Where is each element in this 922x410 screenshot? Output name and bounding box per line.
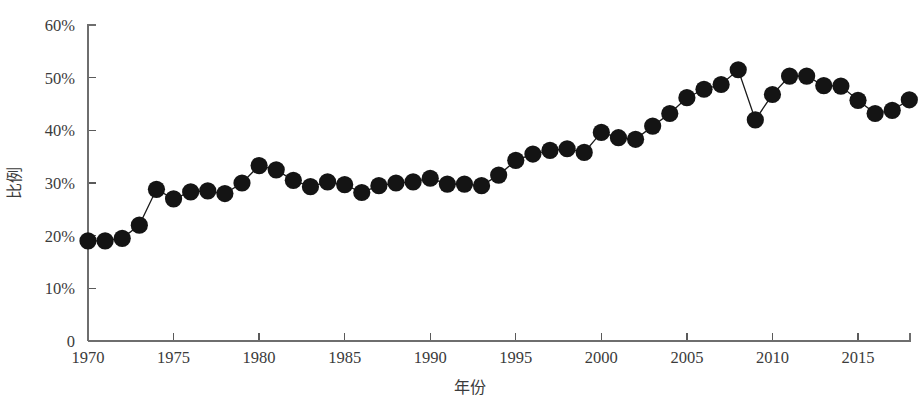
data-point-marker	[832, 77, 849, 94]
data-point-marker	[507, 152, 524, 169]
data-point-marker	[405, 173, 422, 190]
data-point-marker	[541, 142, 558, 159]
data-point-marker	[730, 61, 747, 78]
data-point-marker	[593, 124, 610, 141]
data-point-marker	[353, 184, 370, 201]
data-point-marker	[849, 92, 866, 109]
data-point-marker	[216, 185, 233, 202]
x-axis-tick-label: 1980	[243, 348, 276, 367]
data-point-marker	[884, 102, 901, 119]
x-axis-tick-label: 1990	[414, 348, 447, 367]
data-point-marker	[302, 178, 319, 195]
x-axis-tick-label: 1985	[328, 348, 361, 367]
data-point-marker	[524, 145, 541, 162]
y-axis-tick-label: 50%	[45, 69, 76, 88]
data-point-marker	[678, 89, 695, 106]
data-point-marker	[268, 161, 285, 178]
data-point-marker	[114, 230, 131, 247]
data-point-marker	[473, 177, 490, 194]
data-point-marker	[422, 170, 439, 187]
line-chart: 010%20%30%40%50%60% 19701975198019851990…	[0, 0, 922, 410]
data-point-marker	[251, 157, 268, 174]
data-point-marker	[576, 144, 593, 161]
data-point-marker	[370, 177, 387, 194]
x-axis-tick-label: 2015	[842, 348, 875, 367]
series-marker-group	[79, 61, 918, 249]
data-point-marker	[559, 140, 576, 157]
data-point-marker	[131, 217, 148, 234]
data-point-marker	[182, 183, 199, 200]
data-point-marker	[644, 118, 661, 135]
data-point-marker	[97, 232, 114, 249]
data-point-marker	[695, 81, 712, 98]
data-point-marker	[713, 76, 730, 93]
data-point-marker	[747, 111, 764, 128]
data-point-marker	[901, 91, 918, 108]
data-point-marker	[165, 190, 182, 207]
data-point-marker	[490, 167, 507, 184]
x-axis-tick-label: 2010	[756, 348, 789, 367]
y-axis-tick-label: 30%	[45, 174, 76, 193]
data-point-marker	[610, 129, 627, 146]
data-point-marker	[233, 174, 250, 191]
data-point-marker	[867, 105, 884, 122]
x-axis-line	[88, 333, 910, 341]
data-point-marker	[148, 181, 165, 198]
x-axis-tick-label: 1995	[499, 348, 532, 367]
y-axis-tick-label: 10%	[45, 279, 76, 298]
data-point-marker	[764, 86, 781, 103]
data-point-marker	[815, 77, 832, 94]
data-point-marker	[387, 174, 404, 191]
series-line-ratio	[88, 70, 909, 241]
data-point-marker	[456, 175, 473, 192]
data-point-marker	[661, 105, 678, 122]
data-point-marker	[798, 67, 815, 84]
y-axis-tick-label-group: 010%20%30%40%50%60%	[45, 16, 76, 351]
y-axis-tick-label: 20%	[45, 227, 76, 246]
chart-container: 010%20%30%40%50%60% 19701975198019851990…	[0, 0, 922, 410]
y-axis-title: 比例	[6, 167, 23, 199]
data-point-marker	[439, 175, 456, 192]
x-axis-tick-label: 1970	[72, 348, 105, 367]
x-axis-tick-label-group: 1970197519801985199019952000200520102015	[72, 348, 875, 367]
data-point-marker	[285, 172, 302, 189]
x-axis-tick-label: 1975	[157, 348, 190, 367]
x-axis-tick-label: 2005	[670, 348, 703, 367]
y-axis-tick-label: 60%	[45, 16, 76, 35]
data-point-marker	[627, 131, 644, 148]
x-axis-tick-label: 2000	[585, 348, 618, 367]
x-axis-title: 年份	[454, 379, 486, 396]
data-point-marker	[781, 67, 798, 84]
data-point-marker	[319, 173, 336, 190]
y-axis-tick-label: 40%	[45, 121, 76, 140]
data-point-marker	[199, 182, 216, 199]
data-point-marker	[336, 176, 353, 193]
data-point-marker	[79, 232, 96, 249]
